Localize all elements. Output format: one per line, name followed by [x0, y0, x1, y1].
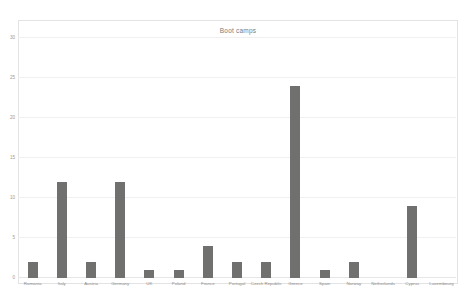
bar[interactable] [57, 182, 67, 278]
bar-slot: Poland [164, 38, 193, 278]
bar-slot: Italy [47, 38, 76, 278]
x-axis-tick-label: Austria [84, 281, 98, 286]
y-axis-tick-label: 10 [10, 195, 15, 200]
bar[interactable] [86, 262, 96, 278]
bar-slot: Romania [18, 38, 47, 278]
bar-slot: Austria [76, 38, 105, 278]
y-axis-tick-label: 0 [12, 275, 15, 280]
bar-slot: Norway [339, 38, 368, 278]
bar[interactable] [261, 262, 271, 278]
x-axis-tick-label: Italy [58, 281, 66, 286]
y-axis-tick-label: 30 [10, 35, 15, 40]
bar-slot: Spain [310, 38, 339, 278]
x-axis-tick-label: Czech Republic [251, 281, 282, 286]
bar-slot: Cyprus [398, 38, 427, 278]
plot-area: 051015202530 RomaniaItalyAustriaGermanyU… [18, 38, 456, 278]
x-axis-tick-label: Romania [24, 281, 42, 286]
bar[interactable] [115, 182, 125, 278]
x-axis-tick-label: Portugal [229, 281, 245, 286]
x-axis-tick-label: Poland [172, 281, 186, 286]
bar-slot: Netherlands [368, 38, 397, 278]
y-axis-tick-label: 5 [12, 235, 15, 240]
bar[interactable] [174, 270, 184, 278]
bar-slot: Portugal [222, 38, 251, 278]
y-axis-tick-label: 15 [10, 155, 15, 160]
bar[interactable] [290, 86, 300, 278]
bar-series: RomaniaItalyAustriaGermanyUKPolandFrance… [18, 38, 456, 278]
bar-slot: Czech Republic [252, 38, 281, 278]
bar-slot: Greece [281, 38, 310, 278]
x-axis-tick-label: Spain [319, 281, 330, 286]
bar-slot: UK [135, 38, 164, 278]
x-axis-tick-label: Luxembourg [429, 281, 453, 286]
x-axis-tick-label: France [201, 281, 215, 286]
y-axis-tick-label: 25 [10, 75, 15, 80]
bar-slot: Germany [106, 38, 135, 278]
bar[interactable] [407, 206, 417, 278]
bar[interactable] [203, 246, 213, 278]
bar[interactable] [144, 270, 154, 278]
chart-title: Boot camps [19, 27, 457, 34]
bar-slot: Luxembourg [427, 38, 456, 278]
bar[interactable] [232, 262, 242, 278]
y-axis-tick-label: 20 [10, 115, 15, 120]
x-axis-tick-label: Netherlands [371, 281, 395, 286]
bar[interactable] [320, 270, 330, 278]
x-axis-tick-label: Cyprus [405, 281, 419, 286]
x-axis-tick-label: UK [146, 281, 152, 286]
bar-slot: France [193, 38, 222, 278]
bar[interactable] [349, 262, 359, 278]
x-axis-tick-label: Norway [346, 281, 361, 286]
x-axis-tick-label: Germany [111, 281, 129, 286]
x-axis-tick-label: Greece [288, 281, 302, 286]
bar[interactable] [28, 262, 38, 278]
